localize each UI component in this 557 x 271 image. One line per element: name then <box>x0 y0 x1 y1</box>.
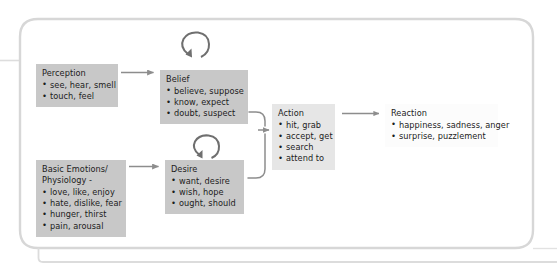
list-item: hunger, thirst <box>42 209 120 220</box>
list-item: doubt, suspect <box>166 108 242 119</box>
circular-arrow-loop-icon <box>190 133 222 161</box>
node-basic-emotions-title: Basic Emotions/ Physiology - <box>42 164 120 186</box>
node-reaction-items: happiness, sadness, anger surprise, puzz… <box>391 120 492 142</box>
list-item: know, expect <box>166 97 242 108</box>
list-item: pain, arousal <box>42 221 120 232</box>
node-perception-title: Perception <box>42 68 112 79</box>
list-item: believe, suppose <box>166 86 242 97</box>
node-reaction-title: Reaction <box>391 108 492 119</box>
node-basic-emotions-physiology[interactable]: Basic Emotions/ Physiology - love, like,… <box>36 160 126 237</box>
node-action[interactable]: Action hit, grab accept, get search atte… <box>272 104 335 170</box>
list-item: ought, should <box>171 198 238 209</box>
node-reaction[interactable]: Reaction happiness, sadness, anger surpr… <box>385 104 498 147</box>
list-item: see, hear, smell <box>42 80 112 91</box>
node-action-items: hit, grab accept, get search attend to <box>278 120 329 165</box>
diagram-canvas: Perception see, hear, smell touch, feel … <box>0 0 557 271</box>
node-perception[interactable]: Perception see, hear, smell touch, feel <box>36 64 118 107</box>
list-item: search <box>278 142 329 153</box>
node-desire-title: Desire <box>171 164 238 175</box>
list-item: love, like, enjoy <box>42 187 120 198</box>
circular-arrow-loop-icon <box>178 30 212 60</box>
list-item: attend to <box>278 153 329 164</box>
node-belief-title: Belief <box>166 74 242 85</box>
node-perception-items: see, hear, smell touch, feel <box>42 80 112 102</box>
arrow-desire-to-action <box>248 134 265 178</box>
list-item: hit, grab <box>278 120 329 131</box>
arrow-belief-to-action <box>249 112 265 126</box>
list-item: touch, feel <box>42 91 112 102</box>
node-belief[interactable]: Belief believe, suppose know, expect dou… <box>160 70 248 124</box>
list-item: hate, dislike, fear <box>42 198 120 209</box>
node-desire[interactable]: Desire want, desire wish, hope ought, sh… <box>165 160 244 214</box>
list-item: happiness, sadness, anger <box>391 120 492 131</box>
node-basic-emotions-items: love, like, enjoy hate, dislike, fear hu… <box>42 187 120 232</box>
node-action-title: Action <box>278 108 329 119</box>
list-item: want, desire <box>171 176 238 187</box>
node-desire-items: want, desire wish, hope ought, should <box>171 176 238 210</box>
list-item: accept, get <box>278 131 329 142</box>
list-item: surprise, puzzlement <box>391 131 492 142</box>
node-belief-items: believe, suppose know, expect doubt, sus… <box>166 86 242 120</box>
list-item: wish, hope <box>171 187 238 198</box>
